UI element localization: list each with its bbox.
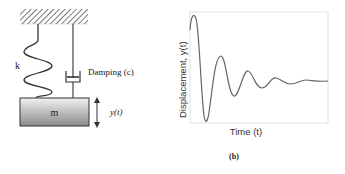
x-axis-label: Time (t)	[230, 126, 262, 137]
double-arrow-icon	[94, 97, 100, 128]
fixed-support	[20, 9, 88, 24]
plot-frame	[190, 12, 328, 123]
mass-label: m	[51, 107, 59, 118]
displacement-plot: Displacement, y(t) Time (t) (b)	[177, 12, 328, 161]
spring-icon	[24, 24, 52, 98]
mass-spring-damper-diagram: k Damping (c) m y(t)	[15, 9, 134, 128]
damper-icon	[66, 24, 80, 98]
damper-label: Damping (c)	[88, 67, 134, 77]
figure: k Damping (c) m y(t) Displacement, y(t) …	[0, 0, 345, 174]
panel-label: (b)	[229, 152, 239, 161]
y-axis-label: Displacement, y(t)	[177, 41, 188, 118]
displacement-label: y(t)	[109, 107, 123, 117]
response-curve	[190, 15, 328, 121]
spring-label: k	[15, 60, 20, 71]
